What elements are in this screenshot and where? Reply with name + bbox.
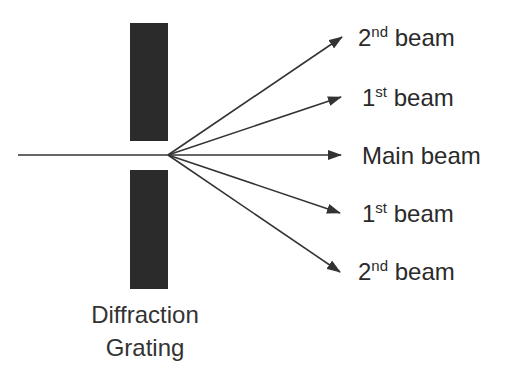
grating-caption: Diffraction Grating — [60, 298, 230, 364]
beam-order-suffix: nd — [371, 257, 388, 274]
beam-order: 2 — [358, 258, 371, 285]
beam-label-lower-1st: 1st beam — [362, 202, 454, 226]
beam-arrow-upper-2nd — [168, 37, 342, 155]
beam-order-suffix: st — [375, 83, 387, 100]
beam-word: Main beam — [362, 142, 481, 169]
beam-order: 1 — [362, 200, 375, 227]
beam-arrow-lower-2nd — [168, 155, 340, 272]
diffraction-diagram: 2nd beam 1st beam Main beam 1st beam 2nd… — [0, 0, 525, 380]
beam-order: 1 — [362, 84, 375, 111]
beam-order: 2 — [358, 24, 371, 51]
beam-label-main: Main beam — [362, 144, 481, 168]
beam-word: beam — [395, 258, 455, 285]
beam-label-upper-2nd: 2nd beam — [358, 26, 455, 50]
grating-caption-line1: Diffraction — [60, 298, 230, 331]
grating-caption-line2: Grating — [60, 331, 230, 364]
beam-label-lower-2nd: 2nd beam — [358, 260, 455, 284]
beam-order-suffix: st — [375, 199, 387, 216]
beam-order-suffix: nd — [371, 23, 388, 40]
beam-arrow-lower-1st — [168, 155, 340, 213]
beam-arrow-upper-1st — [168, 97, 341, 155]
beam-word: beam — [394, 84, 454, 111]
beam-word: beam — [394, 200, 454, 227]
beam-word: beam — [395, 24, 455, 51]
beam-label-upper-1st: 1st beam — [362, 86, 454, 110]
grating-block-bottom — [130, 170, 168, 289]
grating-block-top — [130, 23, 168, 141]
